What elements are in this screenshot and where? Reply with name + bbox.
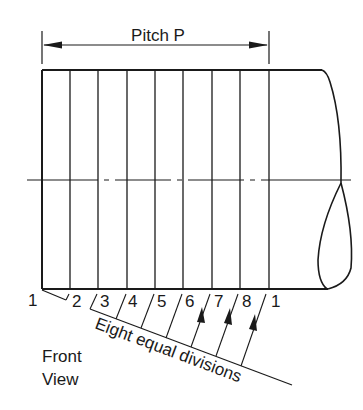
diagonal-segment-start <box>42 290 66 300</box>
break-line-upper <box>322 70 341 183</box>
break-line-lower-left <box>318 183 341 289</box>
tick-2 <box>66 294 69 300</box>
label-3: 3 <box>100 292 109 311</box>
label-6: 6 <box>185 292 194 311</box>
tick-3 <box>90 294 97 309</box>
arrowhead-left-icon <box>43 42 62 49</box>
label-1-start: 1 <box>28 291 37 310</box>
arrowhead-8-icon <box>224 308 232 325</box>
pitch-label: Pitch P <box>131 26 185 45</box>
label-1-end: 1 <box>271 292 280 311</box>
eight-equal-divisions-label: Eight equal divisions <box>93 314 245 386</box>
view-label-front: Front <box>42 347 82 366</box>
division-labels: 1 2 3 4 5 6 7 8 1 <box>28 291 280 311</box>
label-5: 5 <box>157 292 166 311</box>
label-2: 2 <box>72 292 81 311</box>
pitch-dimension: Pitch P <box>42 26 269 64</box>
break-line-lower-right <box>328 183 352 289</box>
label-8: 8 <box>242 292 251 311</box>
helix-pitch-diagram: Pitch P 1 2 3 4 5 6 7 8 1 <box>0 0 363 410</box>
tick-6 <box>166 294 182 338</box>
arrowhead-right-icon <box>249 42 268 49</box>
arrowhead-7-icon <box>197 307 205 323</box>
view-label-view: View <box>42 370 79 389</box>
label-7: 7 <box>214 292 223 311</box>
tick-5 <box>141 294 154 328</box>
arrowhead-1-icon <box>249 314 257 331</box>
tick-4 <box>116 294 126 319</box>
label-4: 4 <box>128 292 137 311</box>
